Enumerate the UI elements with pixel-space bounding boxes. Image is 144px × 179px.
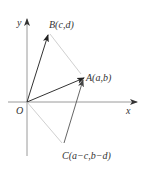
vector-o-to-a bbox=[27, 78, 84, 102]
point-c-label: C(a−c,b−d) bbox=[62, 150, 111, 162]
segment-o-to-c bbox=[27, 102, 62, 143]
point-a-label: A(a,b) bbox=[85, 72, 112, 84]
point-b-label: B(c,d) bbox=[49, 19, 74, 31]
origin-label: O bbox=[16, 105, 23, 116]
vector-diagram: y x O B(c,d) A(a,b) C(a−c,b−d) bbox=[0, 0, 144, 179]
segment-b-to-a bbox=[50, 34, 81, 74]
vector-c-to-a bbox=[64, 80, 83, 143]
x-axis-label: x bbox=[125, 105, 131, 116]
y-axis-label: y bbox=[16, 17, 22, 28]
vector-o-to-b bbox=[27, 35, 48, 102]
